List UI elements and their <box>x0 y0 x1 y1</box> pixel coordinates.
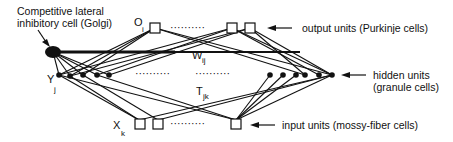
input-hidden-connections <box>59 75 332 120</box>
input-var-label: X <box>113 119 121 131</box>
hidden-ellipsis-1: ·········· <box>135 67 170 79</box>
input-units-label: input units (mossy-fiber cells) <box>282 119 418 131</box>
input-var-sub: k <box>121 129 126 138</box>
output-ellipsis: ·········· <box>170 21 205 33</box>
cerebellar-network-diagram: ·········· ·········· ·········· ·······… <box>0 0 453 142</box>
weight-out-sub: ij <box>202 56 206 65</box>
hidden-var-sub: j <box>53 85 56 94</box>
output-units-label: output units (Purkinje cells) <box>302 22 428 34</box>
network-svg: ·········· ·········· ·········· ·······… <box>0 0 453 142</box>
input-pointer-arrow <box>250 122 275 128</box>
golgi-cell <box>45 46 61 58</box>
golgi-arrowhead <box>42 39 50 47</box>
output-var-sub: i <box>142 25 144 34</box>
golgi-label-line2: inhibitory cell (Golgi) <box>17 17 112 29</box>
hidden-var-label: Y <box>47 73 55 85</box>
output-pointer-arrow <box>267 25 292 31</box>
golgi-label-line1: Competitive lateral <box>17 5 104 17</box>
weight-in-sub: jk <box>202 92 210 101</box>
hidden-pointer-arrow <box>341 72 366 78</box>
weight-in-label: T <box>196 85 203 97</box>
input-ellipsis: ·········· <box>170 117 205 129</box>
hidden-units-label-line1: hidden units <box>373 69 430 81</box>
hidden-ellipsis-2: ·········· <box>195 67 230 79</box>
hidden-units-label-line2: (granule cells) <box>373 81 439 93</box>
